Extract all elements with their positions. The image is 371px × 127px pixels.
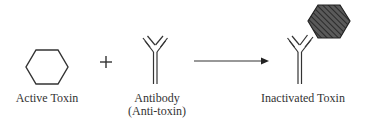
antibody-label-line2: (Anti-toxin): [120, 105, 194, 118]
plus-icon: [100, 56, 112, 68]
inactivated-toxin-icon: [288, 5, 351, 84]
active-toxin-hexagon-icon: [26, 50, 68, 84]
bound-toxin-hexagon-icon: [308, 5, 350, 38]
antibody-label: Antibody (Anti-toxin): [120, 92, 194, 118]
inactivated-toxin-label: Inactivated Toxin: [253, 92, 353, 105]
reaction-arrow-icon: [194, 58, 269, 65]
active-toxin-label: Active Toxin: [10, 92, 84, 105]
antibody-icon: [143, 36, 168, 84]
